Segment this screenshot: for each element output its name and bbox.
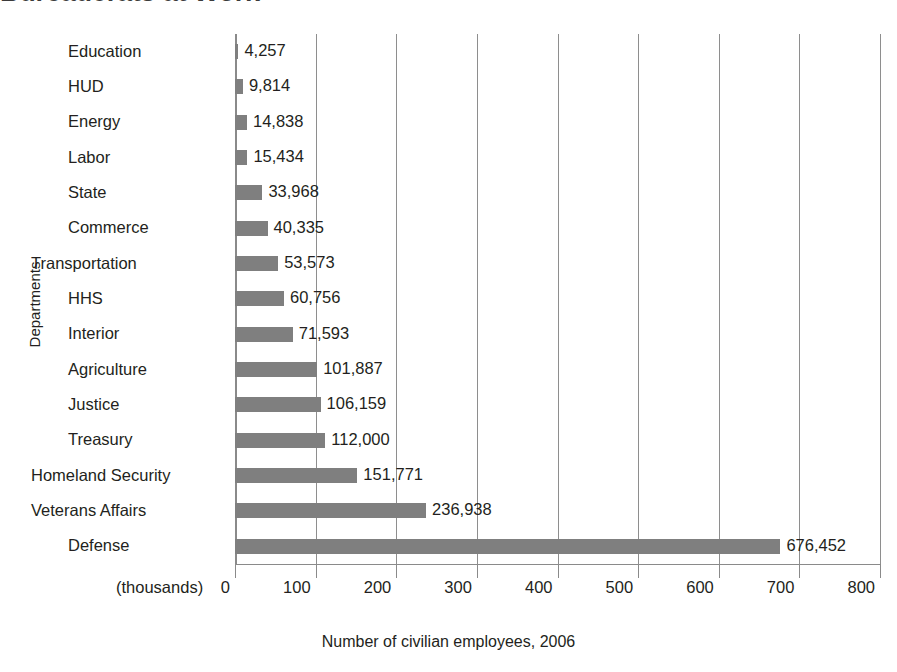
x-axis-tick <box>719 565 720 578</box>
x-axis-tick-label: 300 <box>444 578 477 597</box>
bar-value-label: 71,593 <box>293 324 349 343</box>
bar-value-label: 15,434 <box>247 147 303 166</box>
bar[interactable] <box>235 256 278 271</box>
y-axis-category-label: Labor <box>68 140 110 175</box>
x-axis-tick <box>558 565 559 578</box>
x-axis-tick <box>880 565 881 578</box>
bar[interactable] <box>235 433 325 448</box>
bar-row[interactable]: 40,335 <box>235 211 880 246</box>
bar-row[interactable]: 60,756 <box>235 281 880 316</box>
y-axis-category-label: Agriculture <box>68 352 147 387</box>
x-axis-tick-label: 0 <box>221 578 235 597</box>
y-axis-category-label: Justice <box>68 387 119 422</box>
bar-value-label: 33,968 <box>262 182 318 201</box>
bar-row[interactable]: 151,771 <box>235 458 880 493</box>
bar[interactable] <box>235 468 357 483</box>
x-axis-tick-label: 200 <box>364 578 397 597</box>
x-axis-tick <box>638 565 639 578</box>
y-axis-category-label: Transportation <box>31 246 137 281</box>
x-axis-tick-label: 800 <box>847 578 880 597</box>
y-axis-category-label: Education <box>68 34 141 69</box>
x-axis-title: Number of civilian employees, 2006 <box>0 633 897 651</box>
y-axis-category-label: Energy <box>68 105 120 140</box>
bar[interactable] <box>235 397 321 412</box>
bar[interactable] <box>235 115 247 130</box>
bar-row[interactable]: 15,434 <box>235 140 880 175</box>
bar-value-label: 112,000 <box>325 430 389 449</box>
gridline <box>880 34 881 564</box>
bar-value-label: 53,573 <box>278 253 334 272</box>
x-axis-tick <box>396 565 397 578</box>
bar[interactable] <box>235 185 262 200</box>
bar[interactable] <box>235 291 284 306</box>
bar-row[interactable]: 101,887 <box>235 352 880 387</box>
y-axis-category-label: HUD <box>68 69 104 104</box>
x-axis-tick <box>235 565 236 578</box>
plot-area: 4,2579,81414,83815,43433,96840,33553,573… <box>235 34 880 564</box>
bar[interactable] <box>235 539 780 554</box>
x-axis-tick <box>316 565 317 578</box>
bar[interactable] <box>235 362 317 377</box>
bar-row[interactable]: 53,573 <box>235 246 880 281</box>
bar-row[interactable]: 71,593 <box>235 317 880 352</box>
y-axis-category-label: Homeland Security <box>31 458 170 493</box>
y-axis-category-label: Interior <box>68 317 119 352</box>
y-axis-category-label: Treasury <box>68 423 133 458</box>
bar-chart-figure: Departments EducationHUDEnergyLaborState… <box>0 0 897 672</box>
y-axis-category-label: Veterans Affairs <box>31 493 146 528</box>
bar-value-label: 151,771 <box>357 465 423 484</box>
y-axis-category-label: Commerce <box>68 211 149 246</box>
x-axis-tick-label: 400 <box>525 578 558 597</box>
bar[interactable] <box>235 327 293 342</box>
bar-value-label: 40,335 <box>268 218 324 237</box>
x-axis-tick-label: 600 <box>686 578 719 597</box>
bar[interactable] <box>235 79 243 94</box>
bar-row[interactable]: 9,814 <box>235 69 880 104</box>
bar-row[interactable]: 676,452 <box>235 529 880 564</box>
x-axis-tick-label: 500 <box>606 578 639 597</box>
bar[interactable] <box>235 150 247 165</box>
bar[interactable] <box>235 503 426 518</box>
bar-row[interactable]: 4,257 <box>235 34 880 69</box>
bar-row[interactable]: 106,159 <box>235 387 880 422</box>
x-axis-tick <box>799 565 800 578</box>
bar-value-label: 236,938 <box>426 500 492 519</box>
bar-row[interactable]: 236,938 <box>235 493 880 528</box>
bar-value-label: 60,756 <box>284 288 340 307</box>
bar-value-label: 4,257 <box>238 41 285 60</box>
bar[interactable] <box>235 221 268 236</box>
x-axis-tick-label: 100 <box>283 578 316 597</box>
bar-value-label: 676,452 <box>780 536 846 555</box>
y-axis-category-label: Defense <box>68 529 129 564</box>
bar-row[interactable]: 33,968 <box>235 175 880 210</box>
x-axis-unit-note: (thousands) <box>116 578 203 597</box>
bar-row[interactable]: 14,838 <box>235 105 880 140</box>
bar-row[interactable]: 112,000 <box>235 423 880 458</box>
bar-value-label: 106,159 <box>321 394 387 413</box>
bar-value-label: 14,838 <box>247 112 303 131</box>
y-axis-category-label: State <box>68 175 107 210</box>
y-axis-category-labels: EducationHUDEnergyLaborStateCommerceTran… <box>0 34 228 564</box>
x-axis-tick <box>477 565 478 578</box>
x-axis-tick-label: 700 <box>767 578 800 597</box>
bar-value-label: 101,887 <box>317 359 383 378</box>
bar-value-label: 9,814 <box>243 76 290 95</box>
y-axis-category-label: HHS <box>68 281 103 316</box>
